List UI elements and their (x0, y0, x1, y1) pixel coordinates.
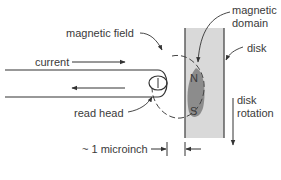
disk-leader (226, 47, 243, 60)
disk-rotation-label-2: rotation (237, 107, 274, 119)
read-head (5, 70, 167, 97)
gap-label: ~ 1 microinch (82, 143, 148, 155)
magnetic-field-label: magnetic field (66, 27, 134, 39)
disk-rotation-label-1: disk (237, 94, 257, 106)
magnetic-field-leader (140, 33, 162, 50)
read-head-label: read head (74, 107, 124, 119)
magnetic-domain-label-1: magnetic (232, 4, 277, 16)
read-head-leader (128, 97, 152, 112)
read-head-diagram: N S magnetic field magnetic domain disk … (0, 0, 281, 180)
pole-north-label: N (190, 72, 198, 84)
disk-label: disk (247, 42, 267, 54)
current-label: current (35, 56, 69, 68)
pole-south-label: S (190, 105, 197, 117)
magnetic-domain-label-2: domain (232, 17, 268, 29)
